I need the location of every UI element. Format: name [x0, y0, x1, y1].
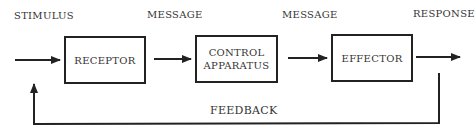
control-label-line2: APPARATUS [204, 59, 270, 72]
control-apparatus-box: CONTROL APPARATUS [195, 35, 278, 83]
message-label-2: MESSAGE [282, 9, 338, 20]
control-label-line1: CONTROL [204, 46, 270, 59]
effector-box: EFFECTOR [331, 34, 413, 82]
feedback-label: FEEDBACK [210, 104, 278, 117]
response-label: RESPONSE [413, 8, 475, 19]
message-label-1: MESSAGE [147, 9, 203, 20]
receptor-label: RECEPTOR [74, 54, 135, 67]
effector-label: EFFECTOR [342, 52, 403, 65]
stimulus-label: STIMULUS [14, 10, 74, 21]
receptor-box: RECEPTOR [64, 36, 146, 84]
